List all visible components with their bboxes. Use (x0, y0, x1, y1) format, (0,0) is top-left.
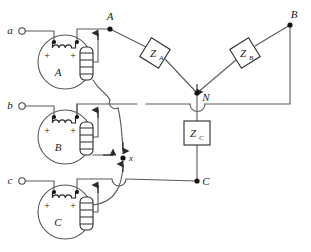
junction-B-primary-right (75, 115, 79, 119)
polarity-plus-C-right: + (70, 200, 76, 211)
junction-A-primary-right (75, 40, 79, 44)
wire-secA-curve-upper (93, 80, 110, 100)
transformer-label-A: A (54, 66, 62, 78)
secondary-bobbin-B (80, 122, 93, 155)
terminal-dots (19, 28, 25, 184)
polarity-plus-A-left: + (44, 50, 50, 61)
wire-c-bus-to-C (126, 179, 197, 181)
polarity-plus-B-right: + (70, 125, 76, 136)
primary-coil-B (53, 117, 76, 123)
wire-secondary-C-up (93, 185, 98, 212)
node-dot-A (107, 26, 112, 31)
node-label-B: B (291, 8, 298, 20)
secondary-bobbin-A (80, 47, 93, 80)
terminal-label-b: b (7, 99, 13, 111)
node-dot-C (194, 178, 199, 183)
wire-secondary-B-up (93, 110, 98, 137)
terminal-label-c: c (8, 174, 13, 186)
transformer-label-C: C (54, 216, 62, 228)
node-dot-N (194, 90, 199, 95)
node-label-N: N (201, 91, 210, 103)
wire-ZA-to-N (165, 59, 197, 93)
impedance-ZC-base: Z (190, 127, 197, 139)
terminal-circle-a (19, 28, 25, 34)
node-dot-B (287, 22, 292, 27)
junction-B-primary-left (52, 115, 56, 119)
terminal-circle-b (19, 103, 25, 109)
impedance-ZC-sub: C (199, 134, 204, 142)
node-label-C: C (202, 175, 210, 187)
wire-secondary-A-up (93, 34, 98, 62)
circuit-svg: a b c A B C + + + + + + A B C N x Z A Z … (0, 0, 311, 252)
wire-c-bus-left (77, 179, 112, 192)
primary-coil-A (53, 42, 76, 48)
polarity-plus-A-right: + (70, 50, 76, 61)
impedance-box-ZC (184, 121, 210, 145)
impedance-ZA-base: Z (150, 47, 157, 59)
junction-C-primary-left (52, 190, 56, 194)
wire-b-bus-left (77, 104, 137, 117)
secondary-bobbin-C (80, 197, 93, 230)
transformer-label-B: B (55, 141, 62, 153)
polarity-plus-C-left: + (44, 200, 50, 211)
wire-N-to-ZB (197, 60, 236, 93)
wire-secA-curve-to-x (118, 108, 123, 150)
wire-primary-A-to-node-A (77, 29, 110, 42)
impedance-ZA-sub: A (158, 54, 164, 62)
impedance-ZB-base: Z (240, 47, 247, 59)
node-label-x: x (128, 153, 133, 163)
junction-A-primary-left (52, 40, 56, 44)
wire-ZB-to-B (255, 25, 290, 46)
node-label-A: A (106, 10, 114, 22)
polarity-plus-B-left: + (44, 125, 50, 136)
terminal-label-a: a (7, 24, 13, 36)
wire-A-to-ZA (110, 29, 146, 47)
impedance-ZB-sub: B (249, 54, 254, 62)
terminal-circle-c (19, 178, 25, 184)
primary-coil-C (53, 192, 76, 198)
circuit-diagram: a b c A B C + + + + + + A B C N x Z A Z … (0, 0, 311, 252)
junction-C-primary-right (75, 190, 79, 194)
node-dot-x (120, 155, 125, 160)
